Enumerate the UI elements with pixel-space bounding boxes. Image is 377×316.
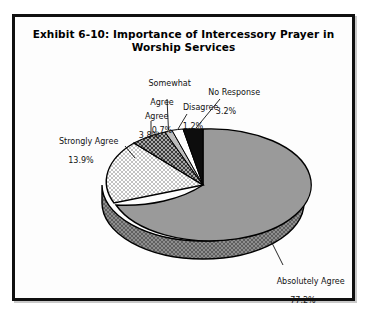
label-agree: Agree 3.8%	[127, 102, 171, 159]
label-agree-value: 3.8%	[127, 131, 171, 141]
exhibit-frame: Exhibit 6-10: Importance of Intercessory…	[12, 14, 355, 301]
label-disagree: Disagree 1.2%	[167, 93, 219, 150]
label-strongly-agree: Strongly Agree 13.9%	[29, 127, 133, 184]
label-disagree-value: 1.2%	[167, 122, 219, 132]
label-somewhat-agree-name-line1: Somewhat	[148, 79, 190, 88]
label-absolutely-agree-name: Absolutely Agree	[277, 277, 345, 286]
label-strongly-agree-name: Strongly Agree	[59, 137, 118, 146]
label-absolutely-agree: Absolutely Agree 77.2%	[251, 267, 355, 316]
label-strongly-agree-value: 13.9%	[29, 156, 133, 166]
pie-chart-plot: Somewhat Agree 0.7% No Response 3.2% Agr…	[15, 17, 352, 298]
label-agree-name: Agree	[145, 112, 169, 121]
label-disagree-name: Disagree	[183, 103, 219, 112]
label-absolutely-agree-value: 77.2%	[251, 296, 355, 306]
leader-absolutely-agree	[271, 241, 283, 265]
